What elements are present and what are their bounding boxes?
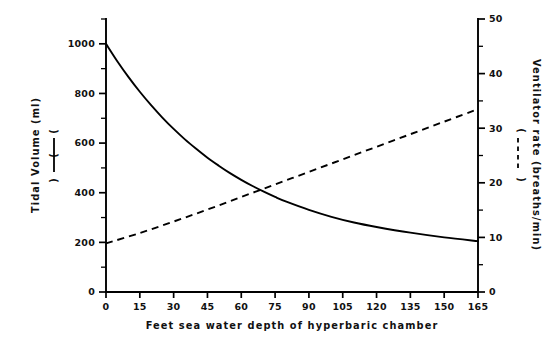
left-axis-legend-paren-open: ( (48, 128, 59, 134)
left-axis-tick-label: 1000 (68, 38, 95, 49)
right-axis-tick-label: 50 (489, 13, 503, 24)
x-axis: 0153045607590105120135150165 (103, 292, 489, 312)
x-axis-title: Feet sea water depth of hyperbaric chamb… (146, 320, 439, 331)
right-axis-legend-paren-close: ) (516, 177, 527, 183)
x-axis-tick-labels: 0153045607590105120135150165 (103, 301, 489, 312)
left-axis-tick-label: 600 (75, 137, 96, 148)
x-axis-tick-label: 30 (167, 301, 181, 312)
x-axis-tick-label: 135 (400, 301, 420, 312)
right-axis-title-group: Ventilator rate (breaths/min) ( ) (513, 59, 542, 251)
left-axis-legend-paren-close: ) (48, 177, 59, 183)
x-axis-tick-label: 60 (234, 301, 248, 312)
left-axis-tick-labels: 02004006008001000 (68, 38, 95, 297)
chart-figure: 02004006008001000 01020304050 0153045607… (0, 0, 557, 341)
right-axis-title: Ventilator rate (breaths/min) (531, 59, 542, 251)
left-axis-tick-label: 400 (75, 187, 96, 198)
right-axis-tick-label: 40 (489, 68, 503, 79)
x-axis-tick-label: 165 (468, 301, 488, 312)
x-axis-tick-label: 105 (333, 301, 353, 312)
left-axis-tick-label: 200 (75, 237, 96, 248)
right-axis-tick-labels: 01020304050 (489, 13, 503, 297)
left-axis-tick-label: 800 (75, 88, 96, 99)
right-axis-tick-label: 0 (489, 286, 496, 297)
left-axis: 02004006008001000 (68, 19, 106, 297)
series-ventilator-rate-curve (106, 109, 478, 243)
left-axis-tick-label: 0 (88, 286, 95, 297)
x-axis-tick-label: 90 (302, 301, 316, 312)
x-axis-tick-label: 120 (366, 301, 387, 312)
x-axis-tick-label: 0 (103, 301, 110, 312)
right-axis-legend-paren-open: ( (516, 128, 527, 134)
chart-svg: 02004006008001000 01020304050 0153045607… (0, 0, 557, 341)
x-axis-tick-label: 75 (268, 301, 282, 312)
x-axis-tick-label: 150 (434, 301, 455, 312)
right-axis: 01020304050 (478, 13, 503, 297)
left-axis-title-group: Tidal Volume (ml) ( ( ) (30, 97, 59, 213)
left-axis-title: Tidal Volume (ml) (30, 97, 41, 213)
x-axis-tick-label: 15 (133, 301, 147, 312)
x-axis-tick-label: 45 (201, 301, 215, 312)
right-axis-tick-label: 30 (489, 123, 503, 134)
right-axis-tick-label: 20 (489, 177, 503, 188)
right-axis-tick-label: 10 (489, 232, 503, 243)
series-tidal-volume-curve (106, 44, 478, 241)
